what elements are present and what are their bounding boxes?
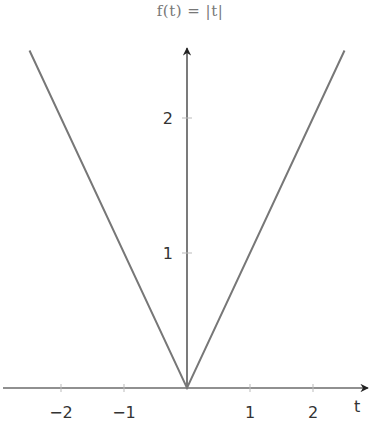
axes: t (3, 48, 368, 416)
x-tick-label: −1 (112, 403, 136, 422)
x-tick-label: 2 (308, 403, 318, 422)
y-tick-label: 1 (163, 244, 173, 263)
x-axis-label: t (354, 397, 360, 416)
plot-area: t −2−11212 (0, 0, 380, 427)
x-tick-label: −2 (49, 403, 73, 422)
y-tick-label: 2 (163, 109, 173, 128)
ticks: −2−11212 (49, 109, 318, 422)
x-tick-label: 1 (245, 403, 255, 422)
